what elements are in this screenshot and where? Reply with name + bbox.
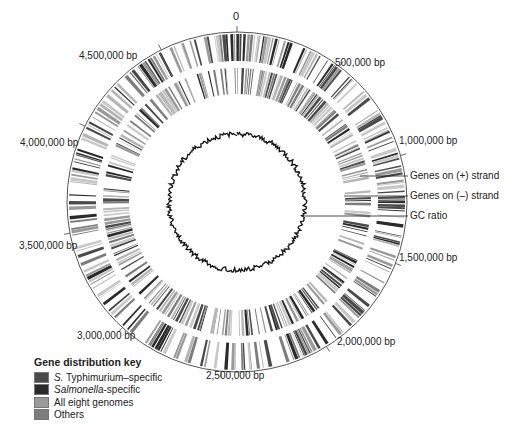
- legend-swatch: [34, 372, 49, 383]
- gene-bar: [347, 288, 370, 307]
- tick-label-2500000: 2,500,000 bp: [206, 370, 264, 381]
- legend-item-italic: S.: [54, 372, 63, 383]
- gene-bar: [239, 34, 241, 61]
- gene-bar: [115, 144, 140, 157]
- gene-bar: [333, 79, 352, 99]
- label-gc-ratio: GC ratio: [410, 210, 447, 221]
- label-plus-strand: Genes on (+) strand: [410, 170, 499, 181]
- gene-bar: [236, 34, 238, 61]
- tick-label-4500000: 4,500,000 bp: [79, 50, 137, 61]
- gene-bar: [235, 68, 236, 94]
- gene-bar: [378, 209, 405, 211]
- legend-item-label: All eight genomes: [54, 397, 134, 408]
- gene-bar: [259, 341, 264, 368]
- gene-bar: [378, 190, 405, 193]
- gene-bar: [345, 197, 371, 200]
- tick-label-3500000: 3,500,000 bp: [19, 240, 77, 251]
- gene-distribution-legend: Gene distribution key S. Typhimurium–spe…: [34, 356, 162, 421]
- gene-bar: [306, 284, 325, 305]
- legend-item-others: Others: [34, 409, 162, 422]
- legend-swatch: [34, 384, 49, 395]
- gene-bar: [260, 307, 267, 333]
- legend-item-salmonella-specific: Salmonella -specific: [34, 384, 162, 397]
- tick-label-4000000: 4,000,000 bp: [20, 137, 78, 148]
- gene-bar: [341, 229, 366, 236]
- tick-label-2000000: 2,000,000 bp: [337, 336, 395, 347]
- gene-bar: [134, 114, 155, 132]
- tick-label-500000: 500,000 bp: [335, 57, 385, 68]
- gene-bar: [213, 70, 219, 96]
- legend-item-italic: Salmonella: [54, 384, 103, 395]
- tick-label-1000000: 1,000,000 bp: [399, 135, 457, 146]
- gene-bar: [254, 342, 260, 369]
- tick-mark: [64, 233, 70, 234]
- gene-bar: [231, 343, 235, 370]
- gene-bar: [378, 196, 405, 199]
- gene-bar: [345, 200, 371, 201]
- gene-bar: [220, 69, 225, 95]
- tick-mark: [159, 44, 162, 49]
- gene-bar: [378, 201, 405, 203]
- gene-bar: [367, 254, 393, 267]
- tick-mark: [79, 124, 84, 127]
- gene-bar: [103, 198, 129, 201]
- gene-bar: [378, 199, 405, 200]
- gene-bar: [103, 195, 129, 198]
- gene-bar: [103, 201, 129, 203]
- gene-bar: [241, 68, 244, 94]
- gene-bar: [194, 39, 203, 66]
- gene-bar: [376, 221, 403, 228]
- gene-bar: [69, 201, 96, 205]
- tick-mark: [396, 263, 402, 265]
- gene-bar: [237, 68, 238, 94]
- gene-bar: [339, 235, 364, 245]
- gene-bar: [224, 343, 229, 370]
- gene-bar: [104, 212, 130, 216]
- legend-swatch: [34, 409, 49, 420]
- tick-mark: [326, 347, 329, 352]
- gene-bar: [345, 190, 371, 194]
- tick-mark: [401, 154, 407, 156]
- gene-bar: [69, 194, 96, 196]
- legend-item-all-eight-genomes: All eight genomes: [34, 396, 162, 409]
- gene-bar: [175, 333, 187, 359]
- gene-bar: [338, 239, 363, 250]
- gene-bar: [255, 308, 260, 334]
- gene-bar: [110, 157, 135, 167]
- legend-item-label: Others: [54, 409, 84, 420]
- gene-bar: [184, 78, 195, 102]
- gene-bar: [234, 34, 236, 61]
- gene-bar: [241, 310, 245, 336]
- gene-bar: [200, 340, 208, 367]
- gene-bar: [375, 230, 402, 236]
- gene-bar: [181, 43, 192, 69]
- legend-title: Gene distribution key: [34, 356, 162, 368]
- gene-bar: [301, 288, 317, 310]
- legend-swatch: [34, 397, 49, 408]
- gene-bar: [144, 279, 163, 299]
- gene-bar: [242, 34, 245, 61]
- gene-bar: [189, 40, 198, 66]
- gene-bar: [264, 340, 273, 367]
- minus-strand-track: [103, 68, 371, 336]
- gene-bar: [201, 73, 209, 98]
- gene-bar: [234, 343, 236, 370]
- gene-bar: [69, 206, 96, 210]
- gene-bar: [214, 342, 220, 369]
- legend-item-s-typhimurium-specific: S. Typhimurium–specific: [34, 371, 162, 384]
- gene-bar: [99, 283, 122, 299]
- gene-bar: [345, 203, 371, 206]
- gc-ratio-track: [167, 132, 307, 272]
- tick-label-1500000: 1,500,000 bp: [399, 252, 457, 263]
- gene-bar: [230, 34, 233, 61]
- tick-label-0: 0: [233, 10, 239, 22]
- tick-label-3000000: 3,000,000 bp: [77, 330, 135, 341]
- legend-item-label: Typhimurium–specific: [63, 372, 162, 383]
- gene-bar: [335, 147, 359, 158]
- legend-item-label: -specific: [103, 384, 140, 395]
- gene-bar: [208, 71, 215, 97]
- gene-bar: [239, 310, 240, 336]
- label-minus-strand: Genes on (–) strand: [410, 190, 499, 201]
